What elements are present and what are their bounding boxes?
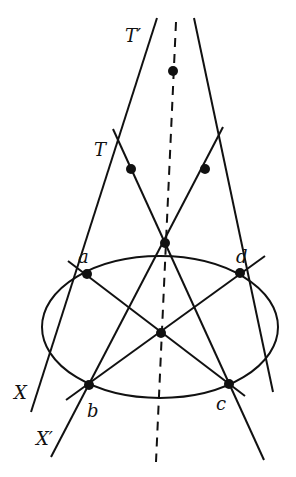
point-t (126, 164, 136, 174)
label-c: c (216, 393, 226, 414)
point-t-prime (168, 66, 178, 76)
label-t: T (94, 139, 108, 160)
label-a: a (78, 246, 89, 267)
point-c (224, 379, 234, 389)
diagram-canvas: T′ T a d b c X X′ (0, 0, 296, 477)
line-tprime-d (194, 18, 273, 392)
point-d (235, 268, 245, 278)
line-right-b-xprime (51, 127, 223, 457)
point-top-mid (160, 238, 170, 248)
line-tprime-a-x (31, 18, 157, 412)
label-t-prime: T′ (125, 25, 141, 46)
point-center (156, 328, 166, 338)
diagonal-d-b (66, 256, 265, 400)
point-b (84, 380, 94, 390)
label-x: X (12, 382, 28, 403)
diagonal-a-c (68, 261, 245, 396)
point-t-right (200, 164, 210, 174)
label-x-prime: X′ (34, 428, 53, 449)
label-d: d (236, 246, 248, 267)
point-a (82, 269, 92, 279)
label-b: b (87, 400, 99, 421)
